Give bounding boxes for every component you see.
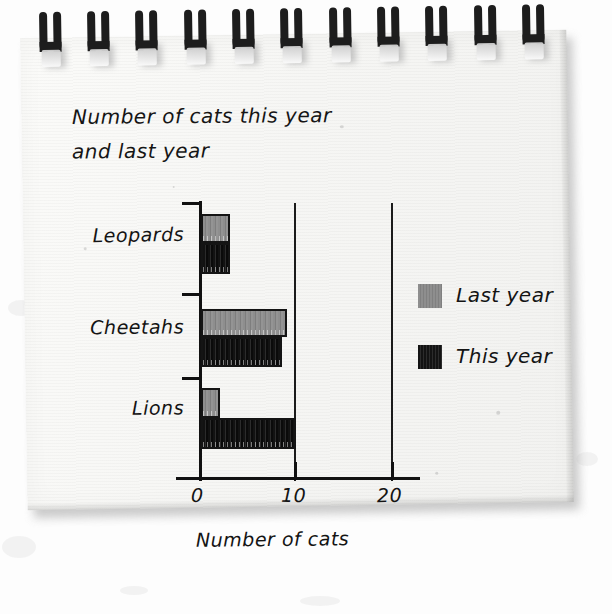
spiral-coil (182, 9, 213, 65)
backdrop-speck (2, 536, 36, 558)
paper-speck (275, 364, 278, 366)
spiral-coil (423, 6, 454, 62)
x-axis-title: Number of cats (196, 527, 349, 551)
backdrop-speck (300, 596, 340, 606)
paper-speck (435, 472, 438, 475)
notepad-page (20, 30, 573, 511)
page-surface (20, 30, 573, 511)
spiral-coil (472, 5, 503, 61)
spiral-coil (37, 12, 68, 68)
spiral-coil (327, 7, 358, 63)
spiral-coil (375, 6, 406, 62)
paper-speck (340, 125, 344, 128)
paper-speck (173, 186, 175, 188)
backdrop-speck (120, 586, 148, 595)
spiral-coil (278, 8, 309, 64)
paper-speck (84, 247, 87, 250)
spiral-coil (133, 10, 164, 66)
spiral-coil (85, 11, 116, 67)
spiral-coil (230, 9, 261, 65)
backdrop-speck (576, 452, 598, 466)
screenshot-canvas: Number of cats this year and last year 0… (0, 0, 612, 614)
spiral-coil (520, 4, 551, 60)
paper-speck (496, 411, 500, 415)
spiral-binding (23, 0, 570, 76)
